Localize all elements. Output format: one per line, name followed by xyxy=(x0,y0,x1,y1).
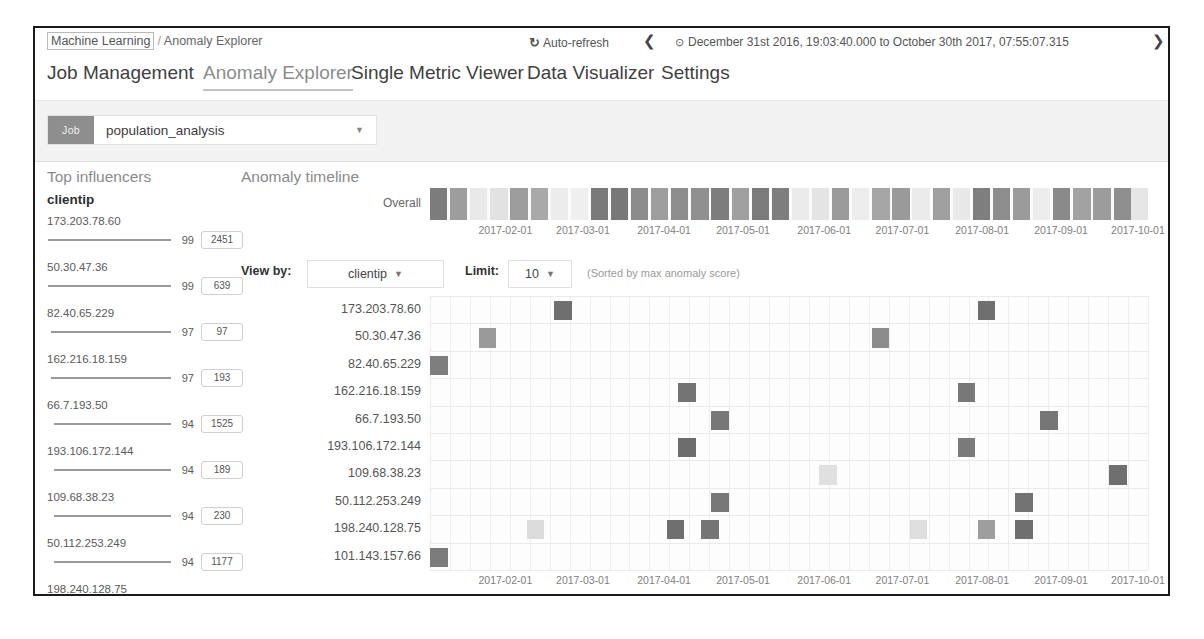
timeline-cell[interactable] xyxy=(591,188,608,220)
timeline-cell[interactable] xyxy=(671,188,688,220)
timeline-cell[interactable] xyxy=(953,188,970,220)
timeline-cell[interactable] xyxy=(1033,188,1050,220)
timeline-cell[interactable] xyxy=(973,188,990,220)
axis-tick-label: 2017-10-01 xyxy=(1111,574,1165,586)
timeline-cell[interactable] xyxy=(611,188,628,220)
timeline-cell[interactable] xyxy=(1053,188,1070,220)
timeline-cell[interactable] xyxy=(450,188,467,220)
timeline-cell[interactable] xyxy=(571,188,588,220)
heatmap-cell[interactable] xyxy=(958,383,976,402)
heatmap-x-axis: 2017-02-012017-03-012017-04-012017-05-01… xyxy=(430,574,1148,592)
influencer-count-badge: 97 xyxy=(201,323,243,341)
heatmap-cell[interactable] xyxy=(479,328,497,347)
timeline-cell[interactable] xyxy=(510,188,527,220)
influencer-item[interactable]: 109.68.38.2394230 xyxy=(47,491,243,529)
grid-line-horizontal xyxy=(430,488,1148,489)
influencer-item[interactable]: 50.30.47.3699639 xyxy=(47,261,243,299)
timeline-cell[interactable] xyxy=(1013,188,1030,220)
job-selector[interactable]: Job population_analysis ▼ xyxy=(47,115,377,145)
tab-data-visualizer[interactable]: Data Visualizer xyxy=(527,62,654,89)
timeline-cell[interactable] xyxy=(792,188,809,220)
heatmap-cell[interactable] xyxy=(958,438,976,457)
influencer-count-badge: 189 xyxy=(201,461,243,479)
timeline-cell[interactable] xyxy=(691,188,708,220)
timeline-cell[interactable] xyxy=(752,188,769,220)
influencer-item[interactable]: 82.40.65.2299797 xyxy=(47,307,243,345)
timeline-cell[interactable] xyxy=(872,188,889,220)
influencer-item[interactable]: 162.216.18.15997193 xyxy=(47,353,243,391)
timeline-cell[interactable] xyxy=(1114,188,1131,220)
heatmap-cell[interactable] xyxy=(667,520,685,539)
heatmap-cell[interactable] xyxy=(1040,411,1058,430)
influencer-item[interactable]: 193.106.172.14494189 xyxy=(47,445,243,483)
heatmap-row-label: 173.203.78.60 xyxy=(241,296,421,323)
timeline-cell[interactable] xyxy=(531,188,548,220)
time-next-button[interactable]: ❯ xyxy=(1152,32,1165,50)
axis-tick-label: 2017-03-01 xyxy=(556,224,610,236)
timeline-cell[interactable] xyxy=(732,188,749,220)
timeline-cell[interactable] xyxy=(1131,188,1148,220)
view-by-select[interactable]: clientip ▼ xyxy=(307,260,444,288)
heatmap-cell[interactable] xyxy=(978,520,996,539)
heatmap-cell[interactable] xyxy=(678,438,696,457)
timeline-cell[interactable] xyxy=(832,188,849,220)
time-prev-button[interactable]: ❮ xyxy=(643,32,656,50)
heatmap-cell[interactable] xyxy=(430,356,448,375)
timeline-cell[interactable] xyxy=(933,188,950,220)
timeline-cell[interactable] xyxy=(912,188,929,220)
timeline-cell[interactable] xyxy=(430,188,447,220)
heatmap-cell[interactable] xyxy=(1015,493,1033,512)
heatmap-cell[interactable] xyxy=(701,520,719,539)
timeline-cell[interactable] xyxy=(470,188,487,220)
heatmap-cell[interactable] xyxy=(1015,520,1033,539)
timeline-cell[interactable] xyxy=(1093,188,1110,220)
header-bar: Machine Learning/Anomaly Explorer ↻Auto-… xyxy=(35,28,1168,59)
heatmap-cell[interactable] xyxy=(711,411,729,430)
grid-line-horizontal xyxy=(430,433,1148,434)
timeline-cell[interactable] xyxy=(490,188,507,220)
timeline-cell[interactable] xyxy=(852,188,869,220)
heatmap-cell[interactable] xyxy=(554,301,572,320)
influencer-item[interactable]: 66.7.193.50941525 xyxy=(47,399,243,437)
heatmap-cell[interactable] xyxy=(527,520,545,539)
heatmap-cell[interactable] xyxy=(678,383,696,402)
influencer-name: 162.216.18.159 xyxy=(47,353,243,365)
breadcrumb-root[interactable]: Machine Learning xyxy=(47,32,154,50)
timeline-cell[interactable] xyxy=(892,188,909,220)
timeline-cell[interactable] xyxy=(551,188,568,220)
tab-anomaly-explorer[interactable]: Anomaly Explorer xyxy=(203,62,353,91)
influencer-count-badge: 1177 xyxy=(201,553,243,571)
overall-swimlane[interactable] xyxy=(430,188,1148,220)
date-range-picker[interactable]: ⊙December 31st 2016, 19:03:40.000 to Oct… xyxy=(675,35,1069,49)
heatmap-cell[interactable] xyxy=(910,520,928,539)
heatmap-cell[interactable] xyxy=(872,328,890,347)
heatmap-cell[interactable] xyxy=(430,548,448,567)
tab-settings[interactable]: Settings xyxy=(661,62,730,89)
heatmap-cell[interactable] xyxy=(711,493,729,512)
timeline-cell[interactable] xyxy=(772,188,789,220)
breadcrumb-current: Anomaly Explorer xyxy=(164,34,263,48)
timeline-cell[interactable] xyxy=(631,188,648,220)
timeline-cell[interactable] xyxy=(993,188,1010,220)
timeline-cell[interactable] xyxy=(711,188,728,220)
timeline-cell[interactable] xyxy=(1073,188,1090,220)
axis-tick-label: 2017-09-01 xyxy=(1034,224,1088,236)
timeline-cell[interactable] xyxy=(651,188,668,220)
heatmap-cell[interactable] xyxy=(978,301,996,320)
heatmap-cell[interactable] xyxy=(1109,465,1127,484)
influencer-item[interactable]: 50.112.253.249941177 xyxy=(47,537,243,575)
influencer-item[interactable]: 173.203.78.60992451 xyxy=(47,215,243,253)
grid-line-horizontal xyxy=(430,460,1148,461)
influencer-name: 198.240.128.75 xyxy=(47,583,243,595)
tab-single-metric-viewer[interactable]: Single Metric Viewer xyxy=(351,62,524,89)
anomaly-heatmap[interactable] xyxy=(430,296,1148,570)
tab-job-management[interactable]: Job Management xyxy=(47,62,194,89)
grid-line-horizontal xyxy=(430,515,1148,516)
heatmap-cell[interactable] xyxy=(819,465,837,484)
auto-refresh-button[interactable]: ↻Auto-refresh xyxy=(529,35,609,50)
timeline-cell[interactable] xyxy=(812,188,829,220)
heatmap-row-label: 162.216.18.159 xyxy=(241,378,421,405)
limit-select[interactable]: 10 ▼ xyxy=(508,260,572,288)
grid-line-horizontal xyxy=(430,378,1148,379)
influencer-item[interactable]: 198.240.128.7594336 xyxy=(47,583,243,596)
